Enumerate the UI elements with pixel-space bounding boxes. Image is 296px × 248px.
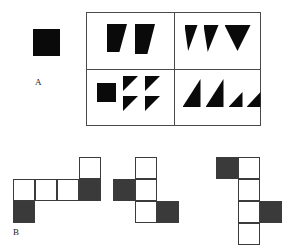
net-cell-white	[35, 179, 57, 201]
shape-triangle-down-narrow	[185, 25, 198, 51]
quadrant-top-left[interactable]	[87, 13, 174, 69]
net-cell-white	[238, 201, 260, 223]
quadrant-bottom-right[interactable]	[174, 69, 261, 125]
net-cell-white	[238, 179, 260, 201]
shape-triangle-bottom-right	[183, 79, 201, 107]
net-cell-white	[135, 157, 157, 179]
net-cell-black	[79, 179, 101, 201]
shape-trapezoid	[107, 24, 127, 52]
shape-triangle-top-left	[123, 96, 138, 111]
shape-triangle-down-wide	[225, 25, 251, 51]
shape-triangle-bottom-right	[247, 92, 261, 107]
shape-triangle-top-left	[145, 76, 160, 91]
quadrant-top-right[interactable]	[174, 13, 261, 69]
shape-triangle-top-left	[123, 76, 138, 91]
net-cell-white	[13, 179, 35, 201]
net-cell-black	[157, 201, 179, 223]
net-cell-black	[260, 201, 282, 223]
net-cell-black	[113, 179, 135, 201]
net-cell-black	[216, 157, 238, 179]
shape-triangle-down-narrow	[204, 25, 219, 52]
answer-panel	[86, 12, 261, 126]
section-b-label: B	[13, 228, 19, 237]
net-cell-white	[135, 201, 157, 223]
shape-triangle-bottom-right	[206, 79, 224, 107]
shape-trapezoid	[135, 24, 155, 54]
shape-triangle-top-left	[145, 96, 160, 111]
section-a-label: A	[35, 78, 42, 87]
visual-reasoning-figure: A B	[0, 0, 296, 248]
net-cell-white	[238, 223, 260, 245]
net-cell-white	[79, 157, 101, 179]
prompt-black-square	[33, 29, 60, 56]
shape-square	[97, 83, 116, 102]
net-cell-black	[13, 201, 35, 223]
net-cell-white	[57, 179, 79, 201]
shape-triangle-bottom-right	[229, 92, 243, 107]
net-cell-white	[238, 157, 260, 179]
net-cell-white	[135, 179, 157, 201]
quadrant-bottom-left[interactable]	[87, 69, 174, 125]
